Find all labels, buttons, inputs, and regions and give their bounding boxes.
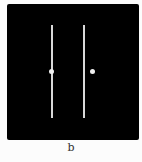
- right-dot: [90, 69, 95, 74]
- left-dot: [49, 69, 54, 74]
- right-vertical-line: [83, 25, 85, 118]
- panel-label: b: [0, 141, 142, 154]
- stimulus-panel: [7, 4, 139, 140]
